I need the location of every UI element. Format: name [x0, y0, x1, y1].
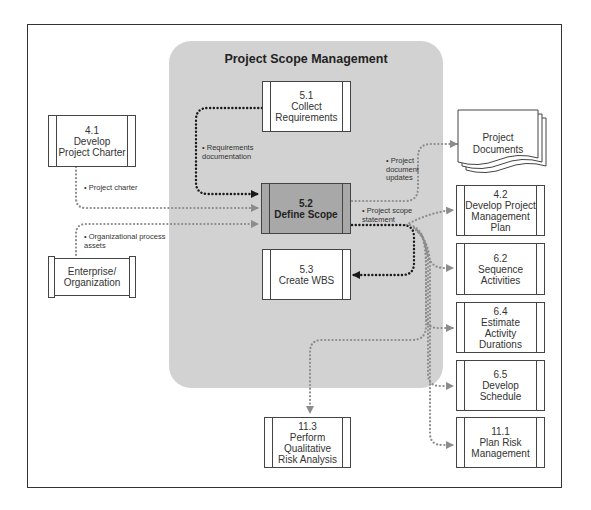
process-5-1-collect-requirements[interactable]: 5.1 Collect Requirements [262, 81, 351, 132]
process-6-4-estimate-durations[interactable]: 6.4 Estimate Activity Durations [456, 302, 545, 353]
process-4-1-develop-project-charter[interactable]: 4.1 Develop Project Charter [48, 115, 136, 167]
flow-label-org-process-assets: • Organizational process assets [84, 233, 165, 250]
process-label: 6.4 Estimate Activity Durations [457, 306, 544, 350]
process-label: 5.3 Create WBS [271, 264, 343, 286]
process-11-1-plan-risk-management[interactable]: 11.1 Plan Risk Management [456, 417, 545, 468]
process-label: 4.2 Develop Project Management Plan [457, 189, 544, 233]
process-5-3-create-wbs[interactable]: 5.3 Create WBS [262, 249, 351, 300]
process-4-2-develop-pm-plan[interactable]: 4.2 Develop Project Management Plan [456, 185, 545, 236]
scroll-cap-left [48, 256, 55, 298]
flow-label-requirements-documentation: • Requirements documentation [202, 144, 253, 161]
flow-label-project-charter: • Project charter [84, 184, 137, 193]
enterprise-label: Enterprise/ Organization [64, 266, 121, 288]
process-label: 5.1 Collect Requirements [267, 90, 345, 123]
process-label: 11.1 Plan Risk Management [463, 426, 537, 459]
project-documents-label[interactable]: Project Documents [460, 132, 536, 156]
process-5-2-define-scope[interactable]: 5.2 Define Scope [261, 183, 351, 234]
scroll-cap-right [129, 256, 136, 298]
process-6-5-develop-schedule[interactable]: 6.5 Develop Schedule [456, 360, 545, 411]
process-label: 5.2 Define Scope [266, 198, 345, 220]
process-label: 6.2 Sequence Activities [470, 253, 531, 286]
process-11-3-qualitative-risk-analysis[interactable]: 11.3 Perform Qualitative Risk Analysis [264, 417, 351, 468]
process-label: 4.1 Develop Project Charter [50, 125, 133, 158]
process-6-2-sequence-activities[interactable]: 6.2 Sequence Activities [456, 243, 545, 295]
process-label: 11.3 Perform Qualitative Risk Analysis [270, 421, 345, 465]
flow-label-document-updates: • Project document updates [386, 157, 419, 183]
enterprise-organization[interactable]: Enterprise/ Organization [48, 258, 136, 296]
process-label: 6.5 Develop Schedule [472, 369, 530, 402]
flow-label-scope-statement: • Project scope statement [362, 207, 412, 224]
